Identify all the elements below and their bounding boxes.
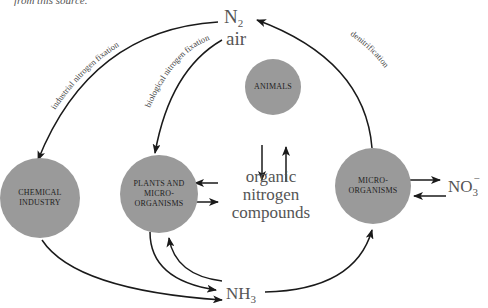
denitrification-label: denitrification (349, 28, 392, 70)
no3-label: NO−3 (448, 178, 478, 201)
air-label: air (226, 30, 246, 48)
animals-label: ANIMALS (254, 82, 292, 92)
microorganisms-node: MICRO-ORGANISMS (335, 148, 411, 224)
chemical-industry-node: CHEMICAL INDUSTRY (0, 158, 80, 238)
plants-label: PLANTS AND MICRO-ORGANISMS (131, 179, 187, 209)
nh3-label: NH3 (226, 285, 256, 308)
chemical-industry-label: CHEMICAL INDUSTRY (10, 188, 70, 208)
organic-nitrogen-compounds-label: organic nitrogen compounds (218, 168, 324, 222)
plants-node: PLANTS AND MICRO-ORGANISMS (120, 155, 198, 233)
microorganisms-label: MICRO-ORGANISMS (345, 176, 401, 196)
industrial-fixation-label: industrial nitrogen fixation (48, 39, 121, 111)
animals-node: ANIMALS (245, 59, 301, 115)
biological-fixation-label: biological nitrogen fixation (143, 32, 212, 109)
